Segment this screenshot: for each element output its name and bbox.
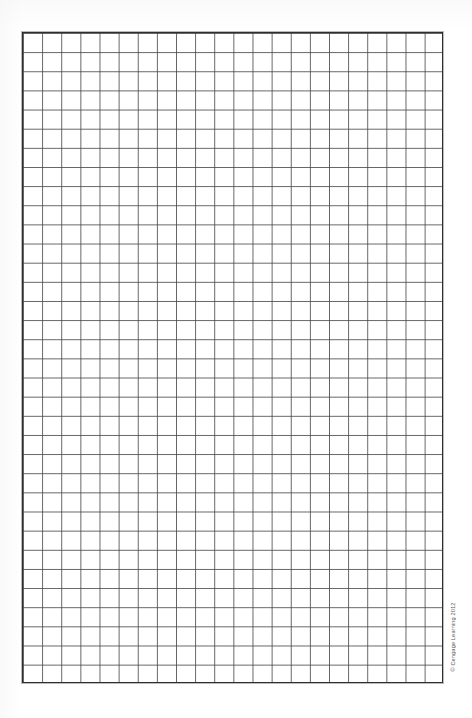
graph-paper-grid[interactable] xyxy=(22,32,443,683)
copyright-credit: © Cengage Learning 2012 xyxy=(446,594,460,680)
copyright-credit-text: © Cengage Learning 2012 xyxy=(450,602,456,671)
worksheet-page: © Cengage Learning 2012 xyxy=(0,0,472,718)
